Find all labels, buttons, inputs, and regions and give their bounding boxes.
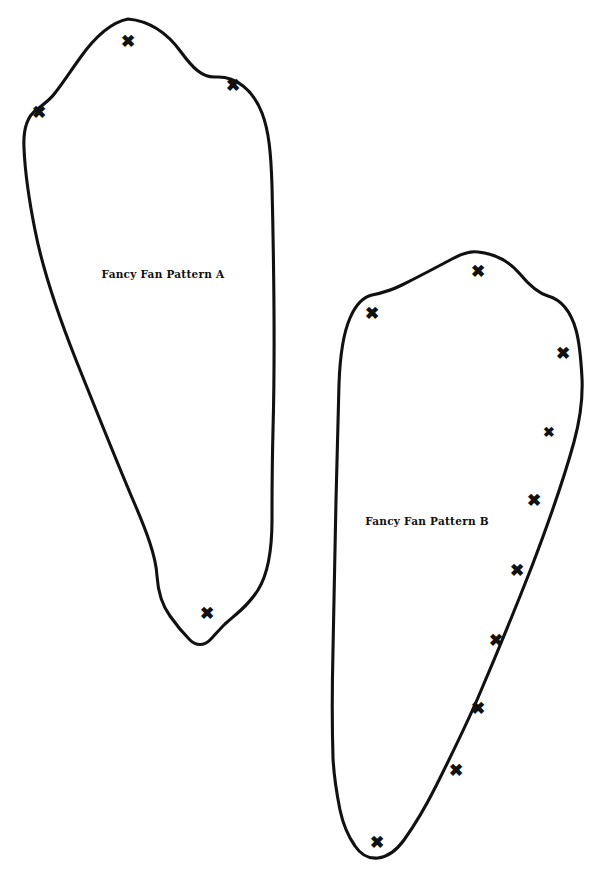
- x-mark-icon-b-9: ✖: [449, 760, 463, 780]
- pattern-a-outline[interactable]: [24, 19, 274, 645]
- x-mark-icon-a-4: ✖: [200, 603, 214, 623]
- pattern-piece-a[interactable]: ✖ ✖ ✖ ✖: [24, 19, 274, 645]
- pattern-sheet: ✖ ✖ ✖ ✖ ✖ ✖ ✖ ✖ ✖ ✖ ✖ ✖ ✖ ✖ Fancy Fan Pa…: [0, 0, 609, 880]
- x-mark-icon-a-3: ✖: [32, 102, 46, 122]
- x-mark-icon-b-3: ✖: [556, 343, 570, 363]
- x-mark-icon-b-6: ✖: [510, 560, 524, 580]
- x-mark-icon-a-1: ✖: [121, 31, 135, 51]
- x-mark-icon-b-7: ✖: [489, 630, 503, 650]
- x-mark-icon-b-1: ✖: [471, 261, 485, 281]
- pattern-canvas: ✖ ✖ ✖ ✖ ✖ ✖ ✖ ✖ ✖ ✖ ✖ ✖ ✖ ✖: [0, 0, 609, 880]
- x-mark-icon-b-10: ✖: [370, 832, 384, 852]
- pattern-a-label: Fancy Fan Pattern A: [102, 268, 225, 280]
- x-mark-icon-b-5: ✖: [527, 490, 541, 510]
- pattern-b-label: Fancy Fan Pattern B: [365, 515, 489, 527]
- x-mark-icon-b-8: ✖: [471, 698, 485, 718]
- x-mark-icon-b-4: ✖: [543, 424, 555, 440]
- pattern-piece-b[interactable]: ✖ ✖ ✖ ✖ ✖ ✖ ✖ ✖ ✖ ✖: [332, 252, 582, 858]
- x-mark-icon-a-2: ✖: [226, 75, 240, 95]
- x-mark-icon-b-2: ✖: [365, 303, 379, 323]
